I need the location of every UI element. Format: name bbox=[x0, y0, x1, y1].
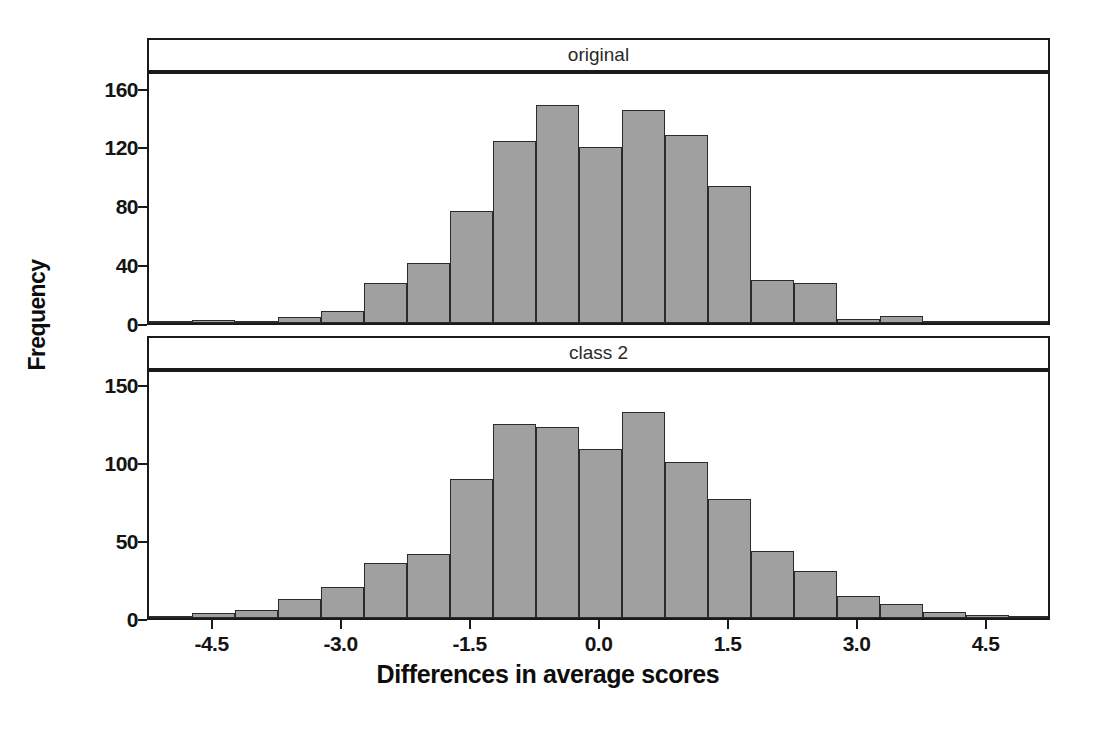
histogram-bar bbox=[235, 610, 278, 618]
y-tick-label: 150 bbox=[60, 374, 138, 398]
histogram-bar bbox=[579, 449, 622, 618]
histogram-bar bbox=[536, 105, 579, 323]
x-tick-label: 3.0 bbox=[843, 632, 871, 656]
panel-class-2-plot bbox=[147, 370, 1050, 620]
x-tick-label: -1.5 bbox=[452, 632, 486, 656]
histogram-bar bbox=[364, 563, 407, 618]
histogram-bar bbox=[493, 424, 536, 618]
y-tick-mark bbox=[138, 463, 147, 465]
bars-class-2 bbox=[149, 372, 1048, 618]
histogram-bar bbox=[579, 147, 622, 324]
histogram-bar bbox=[837, 319, 880, 323]
histogram-bar bbox=[794, 571, 837, 618]
histogram-bar bbox=[450, 211, 493, 323]
histogram-bar bbox=[407, 554, 450, 618]
x-axis-label: Differences in average scores bbox=[0, 660, 1096, 689]
y-tick-mark bbox=[138, 324, 147, 326]
histogram-bar bbox=[192, 320, 235, 323]
histogram-bar bbox=[493, 141, 536, 323]
histogram-bar bbox=[149, 321, 192, 324]
histogram-bar bbox=[665, 135, 708, 323]
histogram-bar bbox=[235, 321, 278, 324]
panel-strip-original: original bbox=[147, 38, 1050, 72]
histogram-bar bbox=[1009, 321, 1050, 324]
x-tick-label: 0.0 bbox=[585, 632, 613, 656]
y-tick-label: 160 bbox=[60, 78, 138, 102]
histogram-bar bbox=[321, 587, 364, 618]
y-tick-label: 0 bbox=[60, 313, 138, 337]
histogram-bar bbox=[622, 110, 665, 323]
y-tick-mark bbox=[138, 265, 147, 267]
y-tick-label: 100 bbox=[60, 452, 138, 476]
x-tick-label: 1.5 bbox=[714, 632, 742, 656]
histogram-bar bbox=[880, 316, 923, 323]
histogram-bar bbox=[751, 280, 794, 323]
histogram-bar bbox=[837, 596, 880, 618]
histogram-bar bbox=[450, 479, 493, 618]
histogram-bar bbox=[708, 186, 751, 323]
histogram-bar bbox=[407, 263, 450, 323]
histogram-bar bbox=[708, 499, 751, 618]
histogram-figure: Frequency original 04080120160 class 2 0… bbox=[0, 0, 1096, 732]
histogram-bar bbox=[923, 612, 966, 618]
histogram-bar bbox=[966, 321, 1009, 324]
histogram-bar bbox=[364, 283, 407, 323]
bars-original bbox=[149, 74, 1048, 323]
histogram-bar bbox=[923, 321, 966, 323]
histogram-bar bbox=[794, 283, 837, 323]
y-tick-label: 50 bbox=[60, 530, 138, 554]
x-tick-label: -3.0 bbox=[323, 632, 357, 656]
y-tick-label: 120 bbox=[60, 136, 138, 160]
x-tick-mark bbox=[598, 620, 600, 629]
y-tick-label: 80 bbox=[60, 195, 138, 219]
x-tick-mark bbox=[211, 620, 213, 629]
x-tick-mark bbox=[856, 620, 858, 629]
panel-strip-class-2: class 2 bbox=[147, 336, 1050, 370]
histogram-bar bbox=[665, 462, 708, 618]
x-tick-mark bbox=[340, 620, 342, 629]
histogram-bar bbox=[751, 551, 794, 618]
x-tick-mark bbox=[727, 620, 729, 629]
x-tick-label: 4.5 bbox=[972, 632, 1000, 656]
histogram-bar bbox=[149, 616, 192, 619]
y-tick-mark bbox=[138, 385, 147, 387]
panel-title-class-2: class 2 bbox=[569, 342, 628, 364]
histogram-bar bbox=[622, 412, 665, 618]
histogram-bar bbox=[536, 427, 579, 618]
histogram-bar bbox=[1009, 616, 1050, 619]
y-tick-mark bbox=[138, 206, 147, 208]
histogram-bar bbox=[192, 613, 235, 618]
y-tick-mark bbox=[138, 147, 147, 149]
histogram-bar bbox=[278, 599, 321, 618]
y-tick-mark bbox=[138, 541, 147, 543]
y-tick-mark bbox=[138, 89, 147, 91]
histogram-bar bbox=[321, 311, 364, 323]
y-tick-label: 40 bbox=[60, 254, 138, 278]
panel-original-plot bbox=[147, 72, 1050, 325]
x-tick-label: -4.5 bbox=[194, 632, 228, 656]
y-axis-label: Frequency bbox=[20, 190, 54, 440]
y-tick-mark bbox=[138, 619, 147, 621]
panel-title-original: original bbox=[568, 44, 629, 66]
histogram-bar bbox=[880, 604, 923, 618]
x-tick-mark bbox=[985, 620, 987, 629]
x-tick-mark bbox=[469, 620, 471, 629]
y-axis-label-text: Frequency bbox=[20, 190, 54, 440]
histogram-bar bbox=[278, 317, 321, 323]
histogram-bar bbox=[966, 615, 1009, 618]
y-tick-label: 0 bbox=[60, 608, 138, 632]
